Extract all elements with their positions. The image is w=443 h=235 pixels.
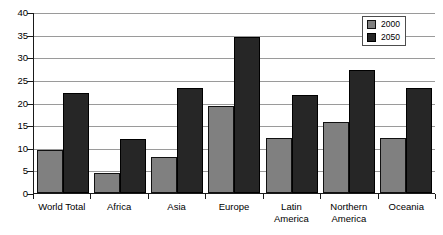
bar-2050 [292,95,318,193]
bar-2000 [266,138,292,193]
bar-2050 [63,93,89,193]
x-axis-category-label: Asia [148,201,205,233]
x-axis-tick-mark [148,194,149,199]
legend-label: 2050 [381,33,400,42]
x-axis-tick-mark [320,194,321,199]
bar-group [149,13,206,193]
bar-2000 [94,173,120,193]
legend-item: 2050 [367,33,400,42]
x-axis-category-label: Europe [205,201,262,233]
x-axis-category-label: Oceania [378,201,435,233]
bar-2000 [380,138,406,193]
x-axis-tick-mark [90,194,91,199]
legend-swatch-icon [367,20,376,29]
bar-2050 [349,70,375,193]
x-axis-category-label: Northern America [320,201,377,233]
bar-2000 [208,106,234,193]
chart-legend: 20002050 [362,16,406,46]
legend-label: 2000 [381,20,400,29]
x-axis-tick-mark [33,194,34,199]
bar-2050 [234,37,260,193]
bar-2050 [120,139,146,193]
bar-group [91,13,148,193]
bar-2000 [323,122,349,193]
bar-group [34,13,91,193]
bar-group [206,13,263,193]
x-axis-labels: World TotalAfricaAsiaEuropeLatin America… [33,201,435,233]
x-axis-tick-mark [378,194,379,199]
x-axis-category-label: World Total [33,201,90,233]
x-axis-tick-mark [263,194,264,199]
bar-group [263,13,320,193]
x-axis-ticks [33,194,435,200]
x-axis-tick-mark [205,194,206,199]
bar-2050 [177,88,203,193]
bar-chart: 0510152025303540 World TotalAfricaAsiaEu… [0,0,443,235]
bar-2050 [406,88,432,193]
x-axis-tick-mark [435,194,436,199]
legend-swatch-icon [367,33,376,42]
y-axis: 0510152025303540 [0,0,33,194]
legend-item: 2000 [367,20,400,29]
x-axis-category-label: Latin America [263,201,320,233]
bar-2000 [151,157,177,193]
x-axis-category-label: Africa [90,201,147,233]
bar-2000 [37,150,63,193]
